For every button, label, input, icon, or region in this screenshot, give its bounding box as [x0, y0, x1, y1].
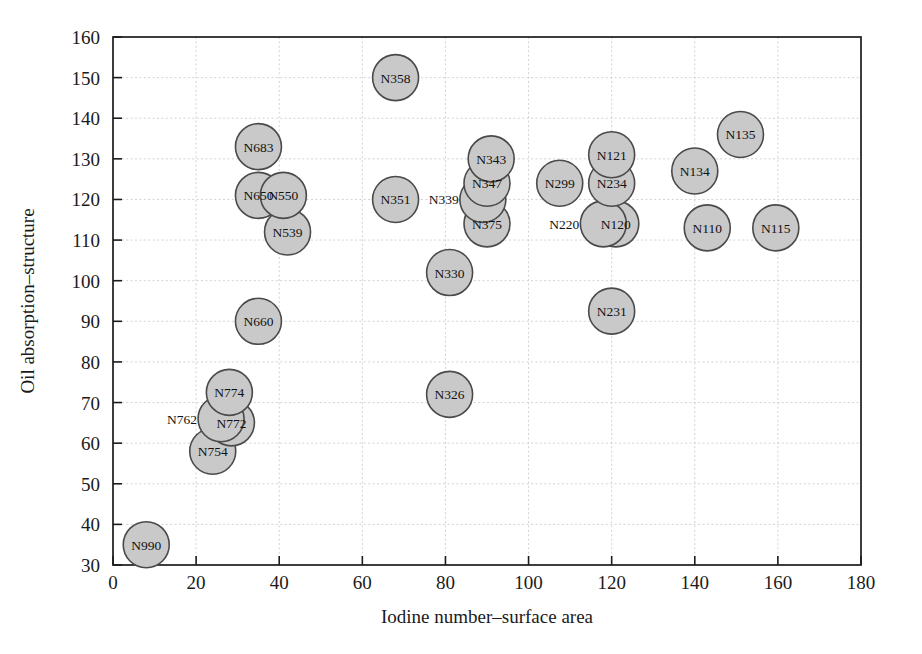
y-tick-label: 100	[72, 271, 101, 292]
x-tick-label: 60	[353, 572, 372, 593]
scatter-plot-figure: 020406080100120140160180 304050607080901…	[0, 0, 922, 654]
point-label-n330: N330	[435, 266, 465, 281]
data-point-markers	[123, 55, 799, 568]
x-tick-label: 140	[681, 572, 710, 593]
point-label-n754: N754	[198, 444, 228, 459]
y-axis-tick-labels: 30405060708090100110120130140150160	[72, 27, 101, 576]
x-tick-label: 80	[436, 572, 455, 593]
point-label-n358: N358	[381, 71, 411, 86]
point-label-n774: N774	[214, 385, 244, 400]
y-tick-label: 60	[81, 433, 100, 454]
point-label-n351: N351	[381, 192, 411, 207]
x-axis-tick-labels: 020406080100120140160180	[108, 572, 875, 593]
point-label-n347: N347	[472, 176, 502, 191]
x-tick-label: 100	[514, 572, 543, 593]
x-tick-label: 160	[764, 572, 793, 593]
point-label-n343: N343	[476, 152, 506, 167]
y-tick-label: 110	[72, 230, 100, 251]
point-label-n135: N135	[725, 127, 755, 142]
point-label-n121: N121	[597, 148, 627, 163]
point-label-n990: N990	[131, 538, 161, 553]
point-label-n660: N660	[243, 314, 273, 329]
y-tick-label: 30	[81, 555, 100, 576]
point-label-n762: N762	[167, 412, 197, 427]
point-label-n134: N134	[680, 164, 710, 179]
chart-canvas: 020406080100120140160180 304050607080901…	[0, 0, 922, 654]
x-tick-label: 120	[597, 572, 626, 593]
point-label-n234: N234	[597, 176, 627, 191]
data-point-labels: N990N754N772N762N774N660N539N650N550N683…	[131, 71, 791, 553]
x-tick-label: 40	[270, 572, 289, 593]
x-axis-ticks	[113, 556, 861, 565]
y-tick-label: 50	[81, 474, 100, 495]
point-label-n772: N772	[216, 416, 246, 431]
x-axis-title: Iodine number–surface area	[381, 606, 594, 627]
point-label-n110: N110	[692, 221, 722, 236]
point-label-n683: N683	[243, 140, 273, 155]
y-tick-label: 70	[81, 393, 100, 414]
y-tick-label: 40	[81, 514, 100, 535]
x-tick-label: 20	[187, 572, 206, 593]
point-label-n375: N375	[472, 217, 502, 232]
y-tick-label: 120	[72, 189, 101, 210]
y-axis-ticks	[113, 37, 122, 565]
y-tick-label: 80	[81, 352, 100, 373]
point-label-n231: N231	[597, 304, 627, 319]
y-axis-title: Oil absorption–structure	[17, 208, 38, 393]
point-label-n326: N326	[435, 387, 465, 402]
point-label-n115: N115	[761, 221, 791, 236]
point-label-n539: N539	[273, 225, 303, 240]
y-tick-label: 160	[72, 27, 101, 48]
point-label-n299: N299	[545, 176, 575, 191]
y-tick-label: 150	[72, 68, 101, 89]
point-label-n339: N339	[429, 192, 459, 207]
point-label-n220: N220	[549, 217, 579, 232]
y-tick-label: 90	[81, 311, 100, 332]
x-tick-label: 180	[847, 572, 876, 593]
y-tick-label: 140	[72, 108, 101, 129]
y-tick-label: 130	[72, 149, 101, 170]
point-label-n120: N120	[601, 217, 631, 232]
x-tick-label: 0	[108, 572, 118, 593]
point-label-n550: N550	[268, 188, 298, 203]
